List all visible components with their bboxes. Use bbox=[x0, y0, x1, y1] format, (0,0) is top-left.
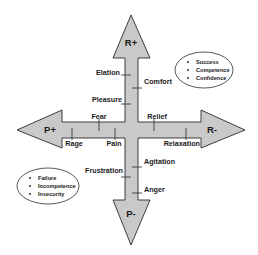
label-pain: Pain bbox=[106, 139, 121, 148]
negative-item-failure: Failure bbox=[38, 175, 56, 181]
bullet-icon bbox=[187, 61, 189, 63]
label-relaxation: Relaxation bbox=[164, 139, 200, 148]
bullet-icon bbox=[187, 77, 189, 79]
positive-outcomes-ellipse: Success Competence Confidence bbox=[175, 52, 233, 88]
pole-label-left: P+ bbox=[44, 124, 56, 135]
label-relief: Relief bbox=[147, 112, 167, 121]
bullet-icon bbox=[29, 185, 31, 187]
label-agitation: Agitation bbox=[144, 157, 175, 166]
bullet-icon bbox=[187, 69, 189, 71]
label-anger: Anger bbox=[144, 185, 165, 194]
pole-label-bottom: P- bbox=[126, 208, 136, 219]
label-pleasure: Pleasure bbox=[92, 95, 122, 104]
label-comfort: Comfort bbox=[144, 77, 173, 86]
label-elation: Elation bbox=[96, 68, 120, 77]
label-fear: Fear bbox=[91, 112, 106, 121]
bullet-icon bbox=[29, 177, 31, 179]
positive-item-confidence: Confidence bbox=[196, 75, 226, 81]
label-frustration: Frustration bbox=[85, 166, 123, 175]
emotion-cross-diagram: R+ P- P+ R- Elation Comfort Pleasure Agi… bbox=[0, 0, 258, 255]
negative-item-incompetence: Incompetence bbox=[38, 183, 76, 189]
positive-item-competence: Competence bbox=[196, 67, 230, 73]
label-rage: Rage bbox=[65, 139, 83, 148]
negative-item-insecurity: Insecurity bbox=[38, 191, 65, 197]
positive-item-success: Success bbox=[196, 59, 219, 65]
negative-outcomes-ellipse: Failure Incompetence Insecurity bbox=[17, 168, 79, 204]
bullet-icon bbox=[29, 193, 31, 195]
pole-label-top: R+ bbox=[125, 37, 138, 48]
pole-label-right: R- bbox=[207, 124, 217, 135]
